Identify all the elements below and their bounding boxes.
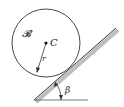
disk-on-incline-diagram: 𝓑 C r β (0, 0, 124, 107)
center-label: C (50, 37, 58, 48)
diagram: 𝓑 C r β (0, 0, 124, 107)
angle-arrowhead-icon (59, 95, 63, 100)
radius-label: r (42, 54, 47, 63)
incline-line (34, 28, 116, 100)
angle-label: β (64, 85, 70, 95)
body-label: 𝓑 (22, 28, 33, 39)
radius-arrowhead-icon (36, 67, 40, 73)
incline-shading (36, 30, 118, 102)
